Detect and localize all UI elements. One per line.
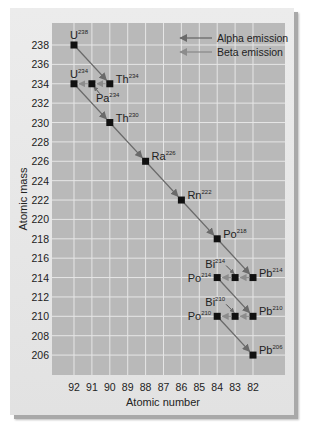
y-tick-label: 210 (31, 310, 49, 322)
y-tick-label: 212 (31, 291, 49, 303)
y-tick-label: 208 (31, 330, 49, 342)
y-tick-label: 224 (31, 175, 49, 187)
nuclide-marker (88, 80, 95, 87)
x-axis-label: Atomic number (126, 396, 200, 408)
y-tick-label: 226 (31, 155, 49, 167)
x-tick-label: 91 (86, 381, 98, 393)
plot-area (52, 23, 285, 375)
y-tick-label: 232 (31, 97, 49, 109)
x-tick-label: 83 (229, 381, 241, 393)
y-tick-label: 218 (31, 233, 49, 245)
y-tick-label: 228 (31, 136, 49, 148)
nuclide-marker (142, 158, 149, 165)
y-tick-label: 236 (31, 58, 49, 70)
y-tick-label: 234 (31, 78, 49, 90)
legend-label: Beta emission (217, 46, 283, 58)
nuclide-marker (71, 80, 78, 87)
x-tick-label: 84 (211, 381, 223, 393)
x-tick-label: 92 (68, 381, 80, 393)
nuclide-marker (214, 313, 221, 320)
y-tick-label: 220 (31, 213, 49, 225)
y-tick-label: 214 (31, 272, 49, 284)
x-tick-label: 89 (122, 381, 134, 393)
x-axis-ticks: 9291908988878685848382 (68, 381, 259, 393)
nuclide-marker (250, 313, 257, 320)
y-tick-label: 222 (31, 194, 49, 206)
x-tick-label: 82 (247, 381, 259, 393)
nuclide-marker (250, 352, 257, 359)
y-axis-ticks: 2062082102122142162182202222242262282302… (31, 39, 49, 361)
nuclide-marker (106, 80, 113, 87)
y-axis-label: Atomic mass (17, 167, 29, 230)
nuclide-marker (71, 42, 78, 49)
y-tick-label: 216 (31, 252, 49, 264)
x-tick-label: 85 (193, 381, 205, 393)
nuclide-marker (106, 119, 113, 126)
x-tick-label: 87 (158, 381, 170, 393)
nuclide-marker (178, 197, 185, 204)
nuclide-marker (214, 235, 221, 242)
legend-label: Alpha emission (217, 32, 288, 44)
x-tick-label: 88 (140, 381, 152, 393)
x-tick-label: 86 (176, 381, 188, 393)
y-tick-label: 238 (31, 39, 49, 51)
nuclide-marker (232, 274, 239, 281)
nuclide-marker (250, 274, 257, 281)
x-tick-label: 90 (104, 381, 116, 393)
nuclide-marker (214, 274, 221, 281)
y-tick-label: 206 (31, 349, 49, 361)
decay-series-chart: 2062082102122142162182202222242262282302… (0, 0, 309, 431)
y-tick-label: 230 (31, 117, 49, 129)
nuclide-marker (232, 313, 239, 320)
